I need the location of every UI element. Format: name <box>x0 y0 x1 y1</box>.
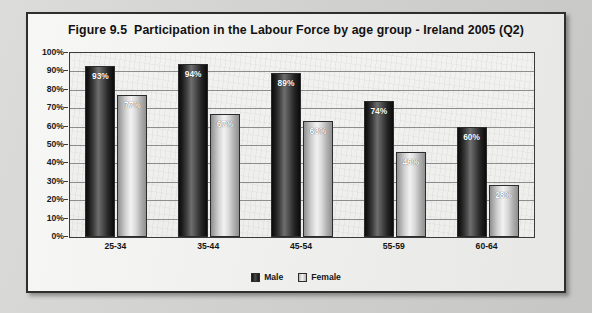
legend-swatch-male <box>251 273 260 282</box>
y-axis-tick-mark <box>64 218 68 219</box>
y-axis-tick-label: 50% <box>28 139 64 149</box>
figure-title-text: Participation in the Labour Force by age… <box>134 23 524 37</box>
bar-female-60-64: 28% <box>489 185 519 237</box>
y-axis-tick-mark <box>64 236 68 237</box>
x-axis-category-label: 45-54 <box>290 241 312 251</box>
bar-value-label: 46% <box>397 157 425 167</box>
chart-title: Figure 9.5Participation in the Labour Fo… <box>28 23 564 37</box>
legend-label-male: Male <box>264 272 283 282</box>
y-axis-tick-label: 100% <box>28 47 64 57</box>
y-axis-tick-mark <box>64 126 68 127</box>
bar-value-label: 28% <box>490 190 518 200</box>
x-axis-category-label: 25-34 <box>104 241 126 251</box>
y-axis-tick-mark <box>64 144 68 145</box>
plot-area: 93%77%94%67%89%63%74%46%60%28% <box>69 52 535 238</box>
x-axis: 25-3435-4445-5455-5960-64 <box>69 241 535 257</box>
bar-male-45-54: 89% <box>271 73 301 237</box>
y-axis-tick-label: 0% <box>28 231 64 241</box>
figure-frame: Figure 9.5Participation in the Labour Fo… <box>26 12 566 293</box>
bar-male-25-34: 93% <box>85 66 115 237</box>
bar-female-45-54: 63% <box>303 121 333 237</box>
y-axis-tick-mark <box>64 181 68 182</box>
legend-item-male: Male <box>251 272 283 282</box>
bar-female-25-34: 77% <box>117 95 147 237</box>
y-axis-tick-mark <box>64 52 68 53</box>
bar-value-label: 67% <box>211 119 239 129</box>
legend-swatch-female <box>298 273 307 282</box>
y-axis-tick-mark <box>64 70 68 71</box>
y-axis-tick-label: 30% <box>28 176 64 186</box>
bar-male-55-59: 74% <box>364 101 394 237</box>
figure-inner-panel: Figure 9.5Participation in the Labour Fo… <box>28 14 564 291</box>
bar-value-label: 77% <box>118 100 146 110</box>
gridline <box>70 71 534 72</box>
bar-value-label: 74% <box>365 106 393 116</box>
figure-number: Figure 9.5 <box>68 23 127 37</box>
legend-label-female: Female <box>311 272 341 282</box>
y-axis-tick-label: 70% <box>28 102 64 112</box>
legend-item-female: Female <box>298 272 341 282</box>
bar-female-35-44: 67% <box>210 114 240 237</box>
x-axis-category-label: 35-44 <box>197 241 219 251</box>
page-background: Figure 9.5Participation in the Labour Fo… <box>0 0 592 313</box>
y-axis-tick-label: 10% <box>28 213 64 223</box>
bar-male-35-44: 94% <box>178 64 208 237</box>
y-axis-tick-label: 80% <box>28 84 64 94</box>
y-axis-tick-label: 40% <box>28 157 64 167</box>
y-axis-tick-label: 20% <box>28 194 64 204</box>
gridline <box>70 90 534 91</box>
y-axis-tick-mark <box>64 162 68 163</box>
y-axis-tick-mark <box>64 107 68 108</box>
bar-male-60-64: 60% <box>457 127 487 237</box>
chart-legend: Male Female <box>28 272 564 282</box>
bar-value-label: 93% <box>86 71 114 81</box>
y-axis-tick-label: 60% <box>28 121 64 131</box>
bar-value-label: 60% <box>458 132 486 142</box>
x-axis-category-label: 55-59 <box>383 241 405 251</box>
y-axis: 100%90%80%70%60%50%40%30%20%10%0% <box>28 52 64 238</box>
x-axis-category-label: 60-64 <box>476 241 498 251</box>
y-axis-tick-label: 90% <box>28 65 64 75</box>
bar-value-label: 63% <box>304 126 332 136</box>
bar-value-label: 94% <box>179 69 207 79</box>
y-axis-tick-mark <box>64 199 68 200</box>
bar-value-label: 89% <box>272 78 300 88</box>
plot-container: 100%90%80%70%60%50%40%30%20%10%0% 93%77%… <box>69 52 535 238</box>
bar-female-55-59: 46% <box>396 152 426 237</box>
y-axis-tick-mark <box>64 89 68 90</box>
